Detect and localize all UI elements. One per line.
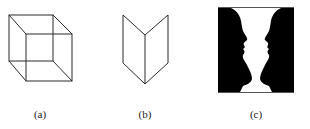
mach-book-drawing bbox=[110, 0, 200, 100]
figure-label-c: (c) bbox=[241, 108, 271, 120]
mach-book-figure bbox=[110, 0, 200, 100]
necker-cube-figure bbox=[0, 0, 110, 100]
figure-label-a: (a) bbox=[25, 108, 55, 120]
figure-label-b: (b) bbox=[130, 108, 160, 120]
rubin-vase-figure bbox=[218, 7, 294, 93]
necker-cube-drawing bbox=[0, 0, 110, 100]
rubin-vase-drawing bbox=[218, 7, 294, 93]
